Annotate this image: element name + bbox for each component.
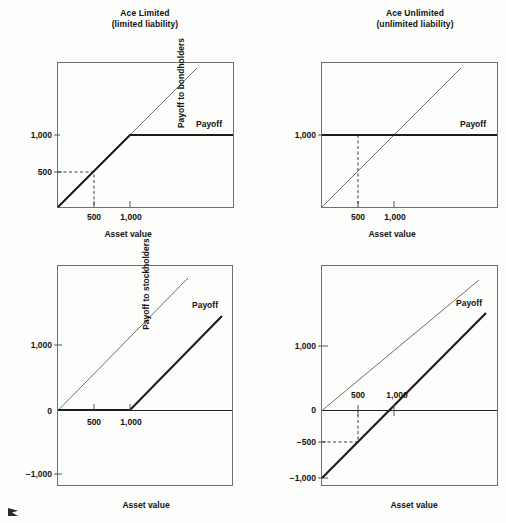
panel-title-line2: (limited liability) [85, 19, 205, 30]
y-tick-500: 500 [38, 167, 52, 177]
x-axis-label: Asset value [368, 229, 416, 239]
dashed-guide-minus500 [322, 410, 358, 442]
figure-canvas: Ace Limited (limited liability) Payoff t… [0, 0, 506, 523]
panel-title-line1: Ace Unlimited [386, 8, 444, 18]
payoff-line [58, 135, 233, 207]
x-axis-label: Asset value [390, 500, 438, 510]
x-tick-1000: 1,000 [120, 417, 142, 427]
panel-ace-unlimited-bondholders: Payoff to bondholders 1,000 Payoff 500 1… [264, 55, 506, 255]
series-label-payoff: Payoff [192, 300, 218, 310]
y-tick-minus1000: −1,000 [26, 469, 53, 479]
payoff-line [58, 316, 222, 410]
x-tick-500: 500 [87, 212, 101, 222]
panel-title-ace-limited: Ace Limited (limited liability) [85, 8, 205, 30]
x-tick-1000: 1,000 [386, 390, 408, 400]
y-axis-label: Payoff to stockholders [141, 238, 151, 330]
y-tick-1000: 1,000 [295, 130, 317, 140]
x-tick-1000: 1,000 [384, 212, 406, 222]
y-tick-1000: 1,000 [31, 340, 53, 350]
x-tick-500: 500 [351, 212, 365, 222]
y-axis-label: Payoff to bondholders [176, 38, 186, 128]
y-tick-minus1000: −1,000 [290, 473, 317, 483]
series-label-payoff: Payoff [456, 298, 482, 308]
y-tick-minus500: −500 [297, 437, 316, 447]
panel-title-ace-unlimited: Ace Unlimited (unlimited liability) [350, 8, 480, 30]
y-tick-0: 0 [47, 406, 52, 416]
x-axis-label: Asset value [122, 500, 170, 510]
panel-ace-unlimited-stockholders: Payoff to stockholders 1,000 0 −500 −1,0… [264, 260, 506, 515]
series-label-payoff: Payoff [460, 119, 486, 129]
x-tick-500: 500 [351, 390, 365, 400]
x-tick-1000: 1,000 [120, 212, 142, 222]
x-axis-label: Asset value [104, 229, 152, 239]
y-tick-0: 0 [311, 405, 316, 415]
series-label-payoff: Payoff [196, 119, 222, 129]
y-tick-1000: 1,000 [295, 341, 317, 351]
panel-ace-limited-bondholders: Payoff to bondholders 1,000 500 Payoff 5… [0, 55, 253, 255]
panel-title-line2: (unlimited liability) [350, 19, 480, 30]
panel-title-line1: Ace Limited [120, 8, 169, 18]
panel-ace-limited-stockholders: Payoff to stockholders 1,000 0 −1,000 Pa… [0, 260, 253, 515]
reference-line-45 [58, 278, 188, 411]
reference-line-45 [322, 68, 461, 207]
y-tick-1000: 1,000 [31, 130, 53, 140]
x-tick-500: 500 [87, 417, 101, 427]
